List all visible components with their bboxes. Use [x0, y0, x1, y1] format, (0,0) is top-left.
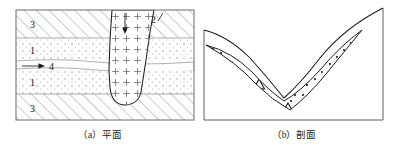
figure-root: 3 1 4 1 3 2 （a）平面: [0, 0, 402, 147]
label-layer-1-lower: 1: [30, 77, 35, 88]
layer-hatch-top: [16, 10, 194, 38]
layer-hatch-bottom: [16, 94, 194, 120]
panel-a-plan-view: 3 1 4 1 3 2 （a）平面: [16, 8, 194, 140]
panel-b-caption: （b）剖面: [272, 129, 317, 140]
label-intrusion-2: 2: [151, 14, 156, 25]
label-channel-4: 4: [49, 61, 54, 72]
geological-figure: 3 1 4 1 3 2 （a）平面: [0, 0, 402, 147]
label-layer-1-upper: 1: [30, 45, 35, 56]
panel-a-caption: （a）平面: [78, 129, 122, 140]
layer-dotted-upper: [16, 38, 194, 60]
label-layer-3-bottom: 3: [30, 103, 35, 114]
panel-a-layers: [16, 8, 194, 120]
layer-dotted-lower: [16, 71, 194, 94]
label-layer-3-top: 3: [30, 19, 35, 30]
